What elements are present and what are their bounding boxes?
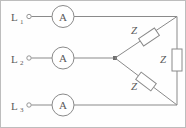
terminal-l2 [27,56,31,60]
impedance-upper [139,28,160,46]
line-label-l3: L [11,100,18,112]
line-label-l1: L [11,11,18,23]
line-label-l3-subscript: 3 [20,106,24,114]
line-label-l2: L [11,53,18,65]
impedance-upper-label: Z [131,24,138,36]
terminal-l3 [27,103,31,107]
impedance-right [172,49,182,71]
line-label-l2-subscript: 2 [20,59,24,67]
ammeter-l2-label: A [59,52,67,64]
impedance-lower [136,72,157,91]
terminal-l1 [27,14,31,18]
impedance-lower-label: Z [131,80,138,92]
circuit-svg: Z Z Z L 1 L 2 L 3 A A A [1,1,186,128]
ammeter-l1-label: A [59,11,67,23]
circuit-diagram: Z Z Z L 1 L 2 L 3 A A A [0,0,186,128]
line-label-l1-subscript: 1 [20,18,24,26]
ammeter-l3-label: A [59,99,67,111]
impedance-right-label: Z [160,53,167,65]
